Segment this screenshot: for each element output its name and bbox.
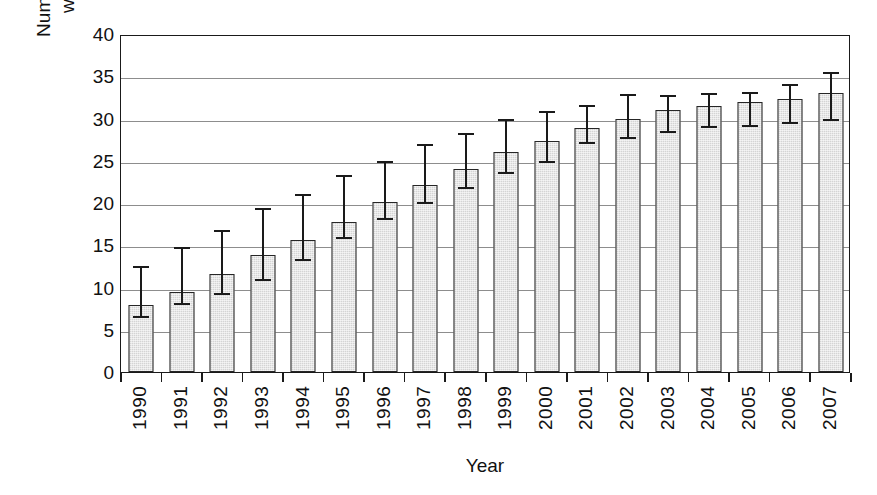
- bar-group: [364, 36, 405, 372]
- bar: [697, 106, 722, 372]
- error-bar-cap-lower: [133, 316, 149, 318]
- error-bar-line: [384, 161, 386, 218]
- error-bar-cap-upper: [539, 111, 555, 113]
- y-axis-tick-labels: 0510152025303540: [62, 0, 114, 495]
- error-bar-cap-upper: [498, 119, 514, 121]
- error-bar-cap-upper: [742, 92, 758, 94]
- x-tick-label: 1999: [494, 386, 516, 456]
- bar-group: [283, 36, 324, 372]
- x-tick-label: 1993: [251, 386, 273, 456]
- error-bar-cap-upper: [660, 95, 676, 97]
- error-bar-line: [302, 194, 304, 259]
- error-bar-line: [667, 95, 669, 130]
- error-bar-cap-upper: [336, 175, 352, 177]
- y-tick-label: 35: [70, 67, 114, 86]
- error-bar-line: [465, 133, 467, 187]
- x-tick: [647, 373, 649, 382]
- x-tick-label: 1995: [332, 386, 354, 456]
- x-tick: [688, 373, 690, 382]
- y-tick-label: 25: [70, 152, 114, 171]
- y-tick-label: 30: [70, 110, 114, 129]
- bar-group: [770, 36, 811, 372]
- bar-group: [121, 36, 162, 372]
- bar: [737, 102, 762, 372]
- error-bar-line: [343, 175, 345, 237]
- x-tick-label: 2007: [819, 386, 841, 456]
- x-tick: [809, 373, 811, 382]
- x-tick-label: 1994: [292, 386, 314, 456]
- error-bar-cap-lower: [377, 218, 393, 220]
- error-bar-cap-lower: [458, 187, 474, 189]
- error-bar-cap-lower: [255, 279, 271, 281]
- error-bar-cap-upper: [417, 144, 433, 146]
- error-bar-line: [789, 84, 791, 122]
- x-tick-label: 1998: [454, 386, 476, 456]
- error-bar-cap-lower: [742, 125, 758, 127]
- error-bar-line: [708, 93, 710, 125]
- error-bar-line: [546, 111, 548, 161]
- y-tick-label: 20: [70, 194, 114, 213]
- bar-group: [527, 36, 568, 372]
- error-bar-line: [181, 247, 183, 303]
- error-bar-cap-lower: [295, 259, 311, 261]
- y-tick-label: 0: [70, 363, 114, 382]
- x-axis-tick-labels: 1990199119921993199419951996199719981999…: [120, 386, 851, 462]
- x-tick: [161, 373, 163, 382]
- x-tick: [769, 373, 771, 382]
- x-tick-label: 1990: [129, 386, 151, 456]
- x-tick-label: 2005: [738, 386, 760, 456]
- error-bar-cap-upper: [458, 133, 474, 135]
- x-tick: [201, 373, 203, 382]
- error-bar-cap-upper: [579, 105, 595, 107]
- hiv-prevalence-bar-chart: Number of people living with HIV (Millio…: [0, 0, 877, 495]
- bar-group: [689, 36, 730, 372]
- bar: [615, 119, 640, 372]
- error-bar-line: [627, 94, 629, 136]
- x-tick: [444, 373, 446, 382]
- bar-series: [121, 36, 849, 372]
- error-bar-cap-lower: [579, 142, 595, 144]
- error-bar-cap-lower: [823, 119, 839, 121]
- error-bar-cap-lower: [174, 303, 190, 305]
- x-axis-title: Year: [120, 455, 850, 477]
- bar: [332, 222, 357, 372]
- error-bar-cap-lower: [417, 202, 433, 204]
- bar-group: [608, 36, 649, 372]
- error-bar-line: [586, 105, 588, 142]
- error-bar-line: [830, 72, 832, 118]
- error-bar-cap-lower: [620, 137, 636, 139]
- x-tick-label: 1997: [413, 386, 435, 456]
- x-tick: [566, 373, 568, 382]
- bar: [778, 99, 803, 372]
- bar: [534, 141, 559, 372]
- error-bar-cap-lower: [214, 293, 230, 295]
- bar-group: [243, 36, 284, 372]
- error-bar-line: [749, 92, 751, 125]
- x-tick: [850, 373, 852, 382]
- error-bar-cap-lower: [539, 161, 555, 163]
- bar-group: [324, 36, 365, 372]
- x-tick: [607, 373, 609, 382]
- bar-group: [729, 36, 770, 372]
- error-bar-cap-upper: [701, 93, 717, 95]
- bar-group: [567, 36, 608, 372]
- bar-group: [810, 36, 851, 372]
- error-bar-cap-upper: [620, 94, 636, 96]
- error-bar-cap-upper: [255, 208, 271, 210]
- x-tick: [404, 373, 406, 382]
- x-tick-label: 2001: [575, 386, 597, 456]
- error-bar-line: [262, 208, 264, 278]
- error-bar-cap-upper: [782, 84, 798, 86]
- error-bar-cap-upper: [133, 266, 149, 268]
- y-tick-label: 10: [70, 279, 114, 298]
- x-tick: [323, 373, 325, 382]
- error-bar-cap-lower: [782, 122, 798, 124]
- error-bar-line: [424, 144, 426, 202]
- error-bar-cap-lower: [701, 126, 717, 128]
- x-tick-label: 2006: [778, 386, 800, 456]
- bar: [656, 110, 681, 372]
- x-tick-label: 2004: [697, 386, 719, 456]
- x-tick: [485, 373, 487, 382]
- bar-group: [648, 36, 689, 372]
- plot-area: [120, 35, 850, 373]
